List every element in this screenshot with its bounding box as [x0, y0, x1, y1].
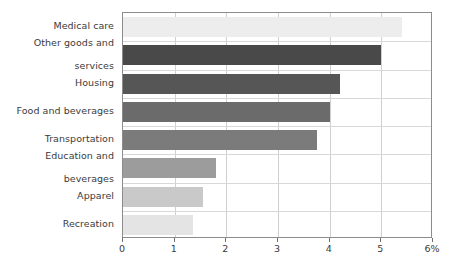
bar-education-and-beverages[interactable]	[123, 158, 216, 178]
category-label-apparel: Apparel	[0, 182, 114, 210]
row-separator	[123, 98, 431, 99]
bar-recreation[interactable]	[123, 215, 193, 235]
x-tick	[225, 238, 226, 242]
category-label-text: Recreation	[63, 218, 114, 230]
bar-medical-care[interactable]	[123, 17, 402, 37]
bar-chart: Medical care Other goods and services Ho…	[0, 0, 454, 267]
x-tick-label: 5	[377, 243, 383, 255]
row-separator	[123, 183, 431, 184]
x-tick-label: 4	[326, 243, 332, 255]
bar-food-and-beverages[interactable]	[123, 102, 330, 122]
category-label-food-and-beverages: Food and beverages	[0, 97, 114, 125]
row-separator	[123, 211, 431, 212]
x-tick	[277, 238, 278, 242]
category-label-education-and-beverages: Education and beverages	[0, 153, 114, 181]
x-tick-label: 1	[171, 243, 177, 255]
bar-other-goods-and-services[interactable]	[123, 45, 381, 65]
category-label-text-line1: Education and	[45, 150, 114, 162]
category-label-recreation: Recreation	[0, 210, 114, 238]
category-label-text: Apparel	[77, 190, 114, 202]
category-label-text: Medical care	[53, 20, 114, 32]
x-tick	[174, 238, 175, 242]
x-tick-label: 2	[222, 243, 228, 255]
category-label-text: Food and beverages	[17, 105, 115, 117]
category-label-text: Transportation	[45, 133, 114, 145]
row-separator	[123, 126, 431, 127]
category-label-text: Housing	[75, 77, 114, 89]
bar-transportation[interactable]	[123, 130, 317, 150]
category-axis: Medical care Other goods and services Ho…	[0, 12, 118, 238]
row-separator	[123, 70, 431, 71]
row-separator	[123, 41, 431, 42]
bar-housing[interactable]	[123, 74, 340, 94]
gridline-5	[381, 13, 382, 237]
x-axis: 0123456%	[122, 238, 432, 264]
row-separator	[123, 154, 431, 155]
x-tick	[432, 238, 433, 242]
plot-area	[122, 12, 432, 238]
category-label-other-goods-and-services: Other goods and services	[0, 40, 114, 68]
category-label-text-line1: Other goods and	[34, 37, 114, 49]
x-tick-label: 6%	[424, 243, 439, 255]
x-tick-label: 0	[119, 243, 125, 255]
category-label-medical-care: Medical care	[0, 12, 114, 40]
category-label-transportation: Transportation	[0, 125, 114, 153]
bar-apparel[interactable]	[123, 187, 203, 207]
x-tick	[122, 238, 123, 242]
x-tick-label: 3	[274, 243, 280, 255]
x-tick	[329, 238, 330, 242]
x-tick	[380, 238, 381, 242]
category-label-housing: Housing	[0, 69, 114, 97]
